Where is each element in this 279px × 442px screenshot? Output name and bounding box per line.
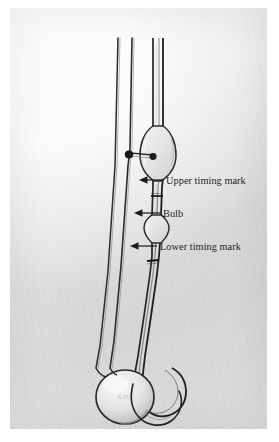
- label-upper-timing-mark: Upper timing mark: [166, 175, 247, 186]
- annotation-layer: Upper timing mark Bulb Lower timing mark: [0, 0, 279, 442]
- annotation-lower-timing-mark: Lower timing mark: [130, 241, 242, 252]
- label-lower-timing-mark: Lower timing mark: [160, 241, 242, 252]
- arrow-head-upper-timing-mark: [139, 176, 148, 184]
- annotation-upper-timing-mark: Upper timing mark: [139, 175, 247, 186]
- arrow-head-bulb: [134, 209, 143, 217]
- annotation-bulb: Bulb: [134, 208, 183, 219]
- figure-container: A3S1 Upper timing mark Bulb: [0, 0, 279, 442]
- arrow-head-lower-timing-mark: [130, 242, 139, 250]
- label-bulb: Bulb: [163, 208, 183, 219]
